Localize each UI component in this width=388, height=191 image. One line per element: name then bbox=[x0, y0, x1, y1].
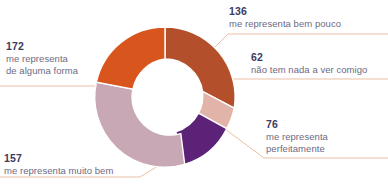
callout-value-157: 157 bbox=[4, 152, 113, 164]
callout-label-157: 157 me representa muito bem bbox=[4, 152, 113, 177]
callout-value-172: 172 bbox=[6, 40, 78, 52]
callout-text-76-line2: perfeitamente bbox=[266, 143, 328, 154]
callout-label-62: 62 não tem nada a ver comigo bbox=[251, 51, 367, 76]
callout-label-76: 76 me representa perfeitamente bbox=[266, 118, 328, 154]
callout-value-136: 136 bbox=[229, 5, 341, 17]
callout-text-136: me representa bem pouco bbox=[229, 18, 341, 29]
callout-label-172: 172 me representa de alguma forma bbox=[6, 40, 78, 76]
callout-text-172-line2: de alguma forma bbox=[6, 65, 78, 76]
donut-slice-136[interactable] bbox=[165, 27, 235, 108]
callout-text-172-line1: me representa bbox=[6, 53, 78, 64]
donut-slices bbox=[95, 27, 235, 167]
callout-text-62: não tem nada a ver comigo bbox=[251, 64, 367, 75]
leader-line-136 bbox=[210, 34, 388, 52]
callout-text-157: me representa muito bem bbox=[4, 165, 113, 176]
donut-chart-figure: 136 me representa bem pouco 62 não tem n… bbox=[0, 0, 388, 191]
callout-value-76: 76 bbox=[266, 118, 328, 130]
donut-slice-172[interactable] bbox=[96, 27, 165, 89]
callout-label-136: 136 me representa bem pouco bbox=[229, 5, 341, 30]
callout-text-76-line1: me representa bbox=[266, 131, 328, 142]
callout-value-62: 62 bbox=[251, 51, 367, 63]
